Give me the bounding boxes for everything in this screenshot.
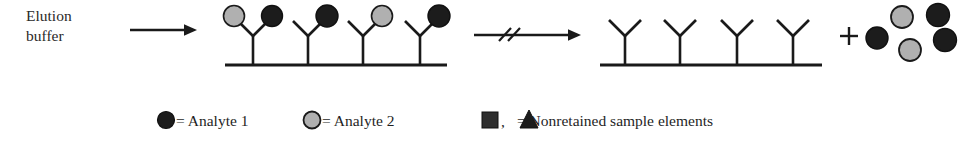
antibody-left-arm xyxy=(293,21,308,36)
antibody-loaded-1 xyxy=(224,6,283,66)
antibody-left-arm xyxy=(721,20,737,36)
elution-label-line1: Elution xyxy=(26,6,72,26)
antibody-empty-3 xyxy=(721,20,753,65)
antibody-right-arm xyxy=(680,20,696,36)
antibody-right-arm xyxy=(737,20,753,36)
bound-analyte2-circle xyxy=(372,6,393,27)
antibody-empty-2 xyxy=(664,20,696,65)
bound-analyte2-circle xyxy=(224,6,245,27)
antibody-left-arm xyxy=(609,20,625,36)
released-analyte1-particle xyxy=(927,4,950,27)
elution-arrow xyxy=(130,24,197,36)
bound-analyte1-circle xyxy=(428,5,450,27)
antibody-empty-4 xyxy=(777,20,809,65)
bound-analyte1-circle xyxy=(262,6,283,27)
legend-label-analyte1: = Analyte 1 xyxy=(176,112,248,130)
bound-analyte1-circle xyxy=(316,5,338,27)
legend-analyte2-icon xyxy=(304,112,321,129)
antibody-left-arm xyxy=(405,21,420,36)
released-analyte1-particle xyxy=(934,29,957,52)
legend-label-analyte2: = Analyte 2 xyxy=(322,112,394,130)
right-support-surface xyxy=(600,20,822,65)
elution-buffer-label: Elution buffer xyxy=(26,6,72,46)
released-analyte2-particle xyxy=(899,39,921,61)
released-analyte1-particle xyxy=(866,27,888,49)
antibody-left-arm xyxy=(777,20,793,36)
left-support-surface xyxy=(224,5,451,65)
antibody-left-arm xyxy=(348,21,363,36)
antibody-empty-1 xyxy=(609,20,641,65)
elapsed-time-arrow xyxy=(474,28,581,41)
legend-square-icon xyxy=(482,112,498,128)
antibody-left-arm xyxy=(664,20,680,36)
legend-comma-separator: , xyxy=(501,113,505,130)
antibody-loaded-4 xyxy=(405,5,450,65)
legend-label-nonretained: = Nonretained sample elements xyxy=(517,112,713,130)
diagram-canvas: , xyxy=(0,0,978,146)
legend-analyte1-icon xyxy=(158,112,175,129)
elution-arrow-head xyxy=(184,24,197,36)
elapsed-time-arrow-head xyxy=(568,29,581,41)
antibody-loaded-2 xyxy=(293,5,338,65)
released-analyte2-particle xyxy=(891,6,913,28)
antibody-right-arm xyxy=(625,20,641,36)
elution-label-line2: buffer xyxy=(26,26,72,46)
plus-sign xyxy=(840,27,858,45)
antibody-loaded-3 xyxy=(348,6,393,66)
antibody-right-arm xyxy=(793,20,809,36)
released-particles-cluster xyxy=(866,4,957,62)
elution-buffer-figure: , Elution buffer = Analyte 1 = Analyte 2… xyxy=(0,0,978,146)
